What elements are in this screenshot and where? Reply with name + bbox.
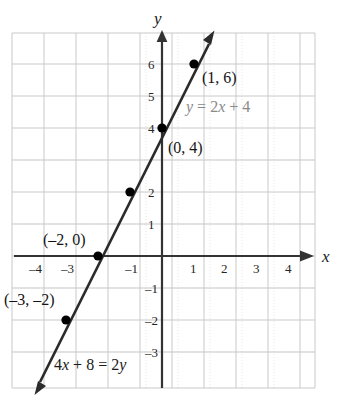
point-label-minus2-0: (–2, 0) [43,232,86,248]
x-tick-minus-1: –1 [125,262,138,275]
point-label-minus3-minus2: (–3, –2) [4,292,55,308]
grid-minor [12,33,315,388]
x-tick-minus-4: –4 [29,262,42,275]
equation-standard-form: 4x + 8 = 2y [54,357,126,373]
point-label-1-6: (1, 6) [202,70,237,86]
point-n2-0 [93,251,102,260]
point-n3-n2 [61,315,70,324]
line-y-equals-2x-plus-4 [35,31,215,396]
y-tick-minus-3: –3 [145,346,158,359]
x-tick-2: 2 [221,262,228,275]
x-tick-4: 4 [285,262,292,275]
x-tick-1: 1 [190,262,197,275]
y-axis [157,30,168,388]
equation-standard-mid: + 8 = 2 [69,356,119,373]
y-tick-2: 2 [148,186,155,199]
point-0-4 [157,123,166,132]
point-1-6 [189,59,198,68]
equation-slope-intercept: y = 2x + 4 [186,99,250,115]
equation-slope-intercept-tail: + 4 [225,98,250,115]
equation-standard-lead: 4 [54,356,62,373]
x-axis [14,251,314,262]
y-tick-6: 6 [148,58,155,71]
point-n1-2 [125,187,134,196]
x-tick-minus-3: –3 [61,262,74,275]
x-tick-3: 3 [253,262,260,275]
y-tick-minus-1: –1 [145,282,158,295]
coordinate-plane-figure: y x –4 –3 –1 1 2 3 4 6 5 4 2 1 –1 –2 –3 … [0,0,339,414]
y-tick-5: 5 [148,90,155,103]
y-tick-4: 4 [148,122,155,135]
y-tick-minus-2: –2 [145,314,158,327]
equation-standard-y: y [119,356,126,373]
point-label-0-4: (0, 4) [168,140,203,156]
y-tick-1: 1 [148,218,155,231]
graph-canvas [0,0,339,414]
equation-slope-intercept-rest: = 2 [193,98,218,115]
x-axis-label: x [322,248,330,265]
grid-major [12,33,315,388]
y-axis-label: y [154,10,162,27]
